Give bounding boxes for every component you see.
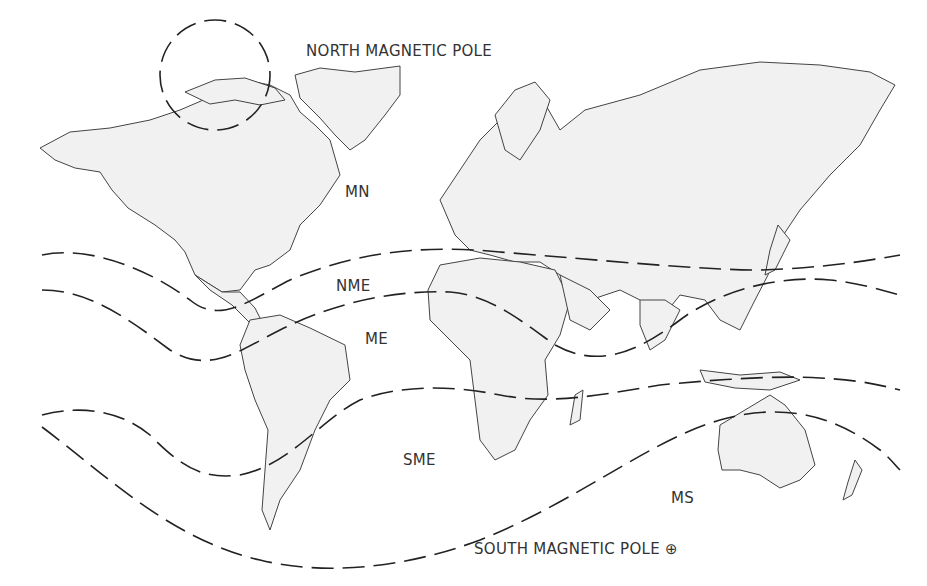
map-canvas: [0, 0, 927, 586]
australia: [718, 395, 815, 488]
world-magnetic-zone-map: NORTH MAGNETIC POLE MN NME ME SME MS SOU…: [0, 0, 927, 586]
south-america: [240, 315, 350, 530]
south-magnetic-pole-label: SOUTH MAGNETIC POLE ⊕: [474, 540, 678, 558]
north-magnetic-pole-label: NORTH MAGNETIC POLE: [306, 42, 492, 60]
zone-label-ms: MS: [671, 489, 694, 507]
zone-label-mn: MN: [345, 183, 370, 201]
zone-label-sme: SME: [403, 451, 436, 469]
madagascar: [570, 390, 583, 425]
north-america: [40, 80, 340, 292]
africa: [428, 258, 570, 460]
zone-label-nme: NME: [336, 277, 371, 295]
zone-label-me: ME: [365, 330, 388, 348]
new-zealand: [843, 460, 862, 500]
